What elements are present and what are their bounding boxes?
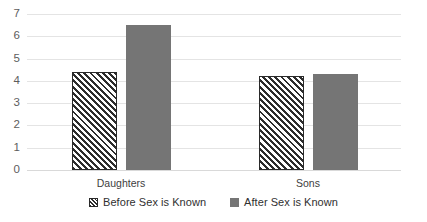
y-tick-label: 3 [4, 97, 20, 109]
y-tick-label: 6 [4, 31, 20, 43]
x-tick-label-sons: Sons [296, 174, 320, 192]
gridline [27, 36, 401, 37]
legend-item-before: Before Sex is Known [89, 196, 206, 208]
y-tick-label: 2 [4, 120, 20, 132]
x-axis-line [27, 170, 401, 171]
plot-area [27, 14, 401, 170]
hatched-swatch-icon [89, 198, 98, 207]
y-tick-label: 1 [4, 142, 20, 154]
y-tick-label: 7 [4, 8, 20, 20]
x-tick-label-daughters: Daughters [97, 174, 145, 192]
bar-sons-before [259, 76, 304, 170]
legend-label: Before Sex is Known [103, 196, 206, 208]
legend-label: After Sex is Known [244, 196, 338, 208]
bar-daughters-after [126, 25, 171, 170]
gridline [27, 14, 401, 15]
chart-legend: Before Sex is Known After Sex is Known [0, 196, 427, 208]
y-tick-label: 4 [4, 75, 20, 87]
bar-sons-after [313, 74, 358, 170]
y-tick-label: 5 [4, 53, 20, 65]
gridline [27, 59, 401, 60]
y-axis: 7 6 5 4 3 2 1 0 [4, 14, 20, 170]
bar-daughters-before [72, 72, 117, 170]
y-tick-label: 0 [4, 164, 20, 176]
x-axis: Daughters Sons [27, 174, 401, 192]
solid-swatch-icon [230, 198, 239, 207]
grouped-bar-chart: 7 6 5 4 3 2 1 0 Daughters Sons Before Se… [0, 0, 427, 222]
legend-item-after: After Sex is Known [230, 196, 338, 208]
